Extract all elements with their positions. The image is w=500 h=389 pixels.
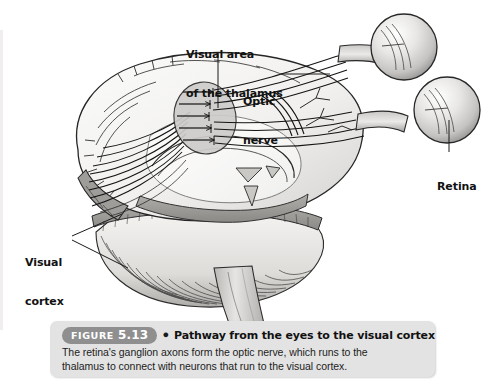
caption-body: The retina's ganglion axons form the opt… — [62, 345, 425, 373]
caption-body-line1: The retina's ganglion axons form the opt… — [62, 345, 425, 359]
label-optic-nerve: Optic nerve — [243, 69, 278, 173]
figure-number-badge: FIGURE 5.13 — [62, 327, 157, 344]
label-cortex-line2: cortex — [25, 295, 64, 308]
figure-badge-word: FIGURE — [71, 330, 114, 341]
label-retina: Retina — [437, 154, 477, 219]
caption-body-line2: thalamus to connect with neurons that ru… — [62, 359, 425, 373]
label-optic-line1: Optic — [243, 95, 278, 108]
caption-bullet-icon: ● — [162, 329, 169, 340]
label-thalamus-line1: Visual area — [186, 48, 283, 61]
figure-canvas: Visual area of the thalamus Optic nerve … — [0, 0, 500, 389]
caption-title-row: FIGURE 5.13 ● Pathway from the eyes to t… — [62, 326, 427, 344]
label-retina-text: Retina — [437, 180, 477, 193]
eyeball-lower — [414, 77, 480, 143]
eyeball-upper — [371, 14, 437, 80]
label-cortex-line1: Visual — [25, 256, 64, 269]
caption-title: Pathway from the eyes to the visual cort… — [174, 329, 435, 342]
label-visual-cortex: Visual cortex — [25, 230, 64, 334]
label-optic-line2: nerve — [243, 134, 278, 147]
figure-badge-number: 5.13 — [118, 328, 148, 342]
figure-caption-panel: FIGURE 5.13 ● Pathway from the eyes to t… — [50, 321, 435, 377]
